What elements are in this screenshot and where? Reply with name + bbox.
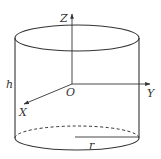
x-axis-label: X <box>18 106 28 119</box>
y-axis-label: Y <box>147 87 156 100</box>
x-axis <box>24 84 72 104</box>
origin-label: O <box>66 86 75 99</box>
bottom-back-dashed-arc <box>15 126 139 138</box>
cylinder-diagram: Z Y X O h r <box>0 0 161 159</box>
bottom-front-arc <box>15 138 139 150</box>
radius-label: r <box>89 139 95 152</box>
height-label: h <box>6 78 13 91</box>
z-axis-label: Z <box>59 12 68 25</box>
top-face-ellipse <box>15 25 139 51</box>
